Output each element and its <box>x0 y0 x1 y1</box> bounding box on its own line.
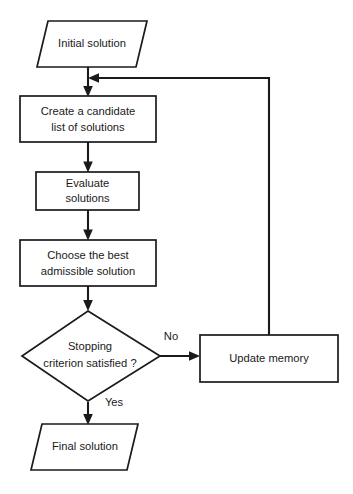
connector-initial-to-create <box>83 67 93 97</box>
connector-create-to-evaluate <box>83 142 93 173</box>
final-solution-label: Final solution <box>52 440 118 452</box>
choose-best-admissible-label-line2: admissible solution <box>41 265 136 277</box>
node-choose-best-admissible[interactable]: Choose the best admissible solution <box>20 240 156 286</box>
create-candidate-list-rect[interactable] <box>20 96 156 142</box>
connector-decision-no-to-update-memory <box>160 351 200 361</box>
evaluate-solutions-label-line2: solutions <box>65 192 110 204</box>
stopping-criterion-label-line1: Stopping <box>68 340 112 352</box>
connector-decision-yes-to-final <box>83 402 93 425</box>
arrow-head-left <box>88 73 99 83</box>
create-candidate-list-label-line1: Create a candidate <box>41 105 136 117</box>
stopping-criterion-label-line2: criterion satisfied ? <box>43 357 136 369</box>
arrow-head-down <box>83 300 93 311</box>
update-memory-label: Update memory <box>229 352 309 364</box>
flowchart-canvas: Initial solution Create a candidate list… <box>0 0 353 494</box>
create-candidate-list-label-line2: list of solutions <box>51 121 125 133</box>
node-create-candidate-list[interactable]: Create a candidate list of solutions <box>20 96 156 142</box>
node-stopping-criterion[interactable]: Stopping criterion satisfied ? <box>22 311 160 401</box>
flowchart-svg: Initial solution Create a candidate list… <box>0 0 353 494</box>
connector-choose-to-decision <box>83 286 93 311</box>
arrow-head-right <box>189 351 200 361</box>
node-final-solution[interactable]: Final solution <box>31 424 138 470</box>
arrow-head-down <box>83 162 93 173</box>
edge-label-yes: Yes <box>105 396 124 408</box>
node-evaluate-solutions[interactable]: Evaluate solutions <box>36 172 139 210</box>
connector-evaluate-to-choose <box>83 210 93 241</box>
choose-best-admissible-rect[interactable] <box>20 240 156 286</box>
evaluate-solutions-label-line1: Evaluate <box>66 177 110 189</box>
initial-solution-label: Initial solution <box>58 37 126 49</box>
choose-best-admissible-label-line1: Choose the best <box>47 249 129 261</box>
arrow-head-down <box>83 230 93 241</box>
node-initial-solution[interactable]: Initial solution <box>37 21 147 67</box>
edge-label-no: No <box>164 330 178 342</box>
node-update-memory[interactable]: Update memory <box>200 335 338 382</box>
